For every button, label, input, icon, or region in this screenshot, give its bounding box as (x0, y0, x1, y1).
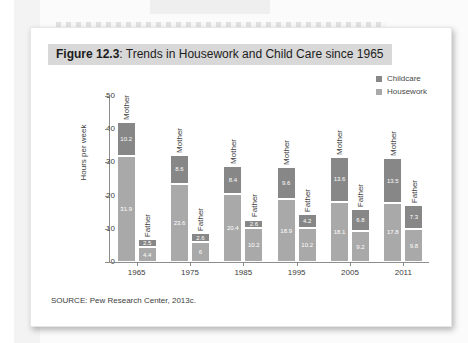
legend-swatch-housework-icon (376, 89, 382, 95)
segment-housework: 18.9 (277, 199, 296, 262)
segment-housework: 18.1 (330, 202, 349, 262)
bar-mother-2011[interactable]: Mother13.517.8 (383, 158, 402, 262)
segment-housework: 23.6 (170, 184, 189, 262)
bar-series-label: Father (409, 180, 418, 203)
segment-housework: 17.8 (383, 203, 402, 262)
segment-childcare: 8.4 (223, 166, 242, 194)
x-tick-mark (403, 262, 404, 266)
x-tick-mark (137, 262, 138, 266)
bar-series-label: Mother (388, 131, 397, 156)
figure-number: Figure 12.3 (56, 47, 119, 61)
bar-series-label: Father (249, 194, 258, 217)
segment-childcare: 10.2 (117, 122, 136, 156)
page-top-band (150, 0, 270, 14)
segment-childcare: 8.6 (170, 155, 189, 184)
x-tick-label-2011: 2011 (395, 268, 412, 277)
bar-series-label: Mother (122, 95, 131, 120)
bar-group-2005: Mother13.618.1Father6.89.22005 (323, 96, 376, 262)
segment-childcare: 9.6 (277, 167, 296, 199)
bar-series-label: Mother (335, 130, 344, 155)
figure-caption: Figure 12.3: Trends in Housework and Chi… (48, 44, 392, 65)
x-tick-label-1985: 1985 (234, 268, 252, 277)
segment-childcare: 6.8 (351, 209, 370, 232)
segment-childcare: 2.6 (191, 233, 210, 242)
segment-childcare: 4.2 (298, 214, 317, 228)
bar-series-label: Father (196, 208, 205, 231)
segment-childcare: 13.6 (330, 157, 349, 202)
bar-mother-2005[interactable]: Mother13.618.1 (330, 157, 349, 262)
x-tick-mark (350, 262, 351, 266)
bar-father-1985[interactable]: Father2.610.2 (244, 220, 263, 262)
bar-group-1975: Mother8.623.6Father2.661975 (163, 96, 216, 262)
segment-childcare: 7.3 (404, 205, 423, 229)
x-tick-label-1995: 1995 (288, 268, 306, 277)
segment-housework: 10.2 (298, 228, 317, 262)
bar-series-label: Mother (175, 128, 184, 153)
bar-series-label: Mother (228, 139, 237, 164)
bar-father-1995[interactable]: Father4.210.2 (298, 214, 317, 262)
segment-housework: 9.2 (351, 231, 370, 262)
segment-housework: 9.8 (404, 229, 423, 262)
bar-father-1975[interactable]: Father2.66 (191, 233, 210, 262)
bar-father-2011[interactable]: Father7.39.8 (404, 205, 423, 262)
segment-housework: 6 (191, 242, 210, 262)
x-tick-mark (243, 262, 244, 266)
bar-mother-1965[interactable]: Mother10.231.9 (117, 122, 136, 262)
bar-mother-1975[interactable]: Mother8.623.6 (170, 155, 189, 262)
bar-series-label: Father (356, 184, 365, 207)
plot-area: Hours per week 01020304050 Mother10.231.… (83, 96, 435, 286)
segment-housework: 20.4 (223, 194, 242, 262)
segment-housework: 31.9 (117, 156, 136, 262)
bar-series-label: Mother (282, 140, 291, 165)
segment-childcare: 2.6 (244, 220, 263, 229)
segment-housework: 4.4 (138, 247, 157, 262)
figure-card: Figure 12.3: Trends in Housework and Chi… (30, 27, 452, 327)
bar-series-label: Father (143, 214, 152, 237)
bar-mother-1985[interactable]: Mother8.420.4 (223, 166, 242, 262)
source-note: SOURCE: Pew Research Center, 2013c. (51, 296, 196, 305)
bar-series-label: Father (303, 189, 312, 212)
legend-label-housework: Housework (387, 87, 427, 96)
bar-group-1985: Mother8.420.4Father2.610.21985 (217, 96, 270, 262)
legend-label-childcare: Childcare (387, 74, 421, 83)
legend-swatch-childcare-icon (376, 76, 382, 82)
x-axis-line (109, 262, 429, 263)
legend-item-housework: Housework (376, 87, 427, 96)
segment-childcare: 13.5 (383, 158, 402, 203)
x-tick-label-1975: 1975 (181, 268, 199, 277)
x-tick-mark (297, 262, 298, 266)
bar-group-1965: Mother10.231.9Father2.54.41965 (110, 96, 163, 262)
y-axis-label: Hours per week (79, 109, 88, 197)
bar-mother-1995[interactable]: Mother9.618.9 (277, 167, 296, 262)
figure-title-text: : Trends in Housework and Child Care sin… (119, 47, 383, 61)
bar-father-1965[interactable]: Father2.54.4 (138, 239, 157, 262)
bar-father-2005[interactable]: Father6.89.2 (351, 209, 370, 262)
y-tick-label: 0 (83, 262, 115, 271)
x-tick-mark (190, 262, 191, 266)
segment-childcare: 2.5 (138, 239, 157, 247)
x-tick-label-1965: 1965 (128, 268, 146, 277)
legend-item-childcare: Childcare (376, 74, 427, 83)
segment-housework: 10.2 (244, 228, 263, 262)
bar-group-2011: Mother13.517.8Father7.39.82011 (377, 96, 430, 262)
x-tick-label-2005: 2005 (341, 268, 359, 277)
bar-group-1995: Mother9.618.9Father4.210.21995 (270, 96, 323, 262)
bar-groups: Mother10.231.9Father2.54.41965Mother8.62… (110, 96, 430, 262)
